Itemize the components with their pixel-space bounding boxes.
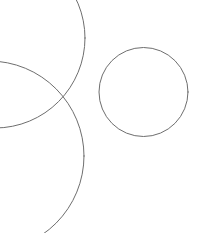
figure-canvas (0, 0, 198, 233)
circles-figure (0, 0, 198, 233)
canvas-background (0, 0, 198, 233)
